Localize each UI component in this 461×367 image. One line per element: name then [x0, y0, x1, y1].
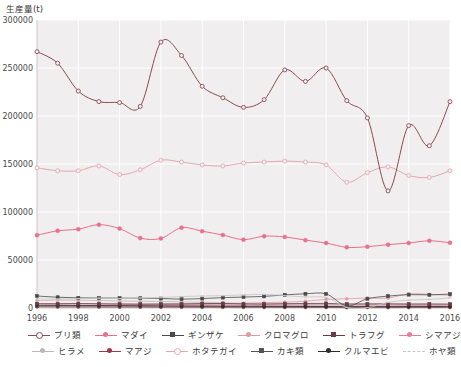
data-point-circle-open: [35, 166, 39, 170]
data-point-circle-open: [303, 160, 307, 164]
legend-label: トラフグ: [349, 330, 385, 340]
data-point-circle-open: [262, 98, 266, 102]
data-point-circle-open: [97, 100, 101, 104]
data-point-circle-open: [324, 66, 328, 70]
data-point-square: [325, 292, 328, 295]
data-point-square: [180, 302, 183, 305]
data-point-circle-open: [407, 174, 411, 178]
data-point-circle: [303, 238, 307, 242]
data-point-circle-open: [448, 169, 452, 173]
data-point-circle: [325, 298, 328, 301]
data-point-circle: [118, 227, 122, 231]
data-point-square: [263, 295, 266, 298]
data-point-circle-open: [407, 124, 411, 128]
y-tick-label: 0: [28, 304, 33, 313]
x-tick-label: 2012: [357, 314, 377, 323]
legend-item[interactable]: マダイ: [95, 330, 148, 340]
data-point-circle-open: [200, 84, 204, 88]
data-point-square: [56, 296, 59, 299]
x-tick-label: 1998: [68, 314, 88, 323]
y-tick-labels: 050000100000150000200000250000300000: [2, 16, 33, 313]
legend-label: カキ類: [277, 346, 304, 356]
legend-item[interactable]: クロマグロ: [238, 330, 309, 340]
data-point-circle: [221, 233, 225, 237]
data-point-circle-open: [345, 180, 349, 184]
y-tick-label: 100000: [2, 208, 33, 217]
x-tick-label: 2000: [109, 314, 129, 323]
data-point-circle-open: [76, 89, 80, 93]
legend-item[interactable]: ブリ類: [28, 330, 81, 340]
data-point-circle-open: [97, 164, 101, 168]
data-point-circle: [180, 226, 184, 230]
legend-swatch-icon: [28, 330, 50, 340]
data-point-circle: [448, 241, 452, 245]
x-tick-label: 1996: [27, 314, 47, 323]
data-point-circle: [304, 305, 307, 308]
data-point-circle-open: [283, 68, 287, 72]
legend-item[interactable]: シマアジ: [399, 330, 461, 340]
legend-label: ギンザケ: [188, 330, 224, 340]
legend-label: クロマグロ: [264, 330, 309, 340]
data-point-circle: [138, 236, 142, 240]
data-point-circle-open: [76, 169, 80, 173]
legend-item[interactable]: ヒラメ: [32, 346, 85, 356]
y-tick-label: 300000: [2, 16, 33, 25]
legend-swatch-icon: [162, 330, 184, 340]
legend-swatch-icon: [95, 330, 117, 340]
data-point-square: [407, 293, 410, 296]
data-point-circle-open: [180, 160, 184, 164]
data-point-circle: [159, 236, 163, 240]
data-point-circle: [35, 233, 39, 237]
data-point-circle-open: [221, 164, 225, 168]
data-point-circle-open: [180, 54, 184, 58]
x-tick-label: 2008: [275, 314, 295, 323]
data-point-square: [242, 302, 245, 305]
legend-item[interactable]: トラフグ: [323, 330, 385, 340]
data-point-circle: [387, 305, 390, 308]
legend-item[interactable]: マアジ: [99, 346, 152, 356]
data-point-square: [283, 302, 286, 305]
legend-item[interactable]: カキ類: [251, 346, 304, 356]
legend-label: ホタテガイ: [192, 346, 237, 356]
data-point-circle: [200, 229, 204, 233]
data-point-circle-open: [242, 105, 246, 109]
data-point-circle-open: [427, 144, 431, 148]
data-point-circle: [345, 297, 348, 300]
data-point-circle-open: [365, 116, 369, 120]
data-point-circle: [386, 243, 390, 247]
x-tick-label: 2002: [151, 314, 171, 323]
legend-label: ブリ類: [54, 330, 81, 340]
data-point-square: [221, 302, 224, 305]
data-point-circle: [36, 299, 39, 302]
legend-swatch-icon: [251, 346, 273, 356]
legend-item[interactable]: クルマエビ: [318, 346, 389, 356]
chart-legend: ブリ類マダイギンザケクロマグロトラフグシマアジ ヒラメマアジホタテガイカキ類クル…: [34, 327, 454, 363]
data-point-circle-open: [56, 169, 60, 173]
data-point-square: [428, 293, 431, 296]
data-point-square: [304, 292, 307, 295]
y-tick-label: 50000: [8, 256, 33, 265]
data-point-circle: [407, 241, 411, 245]
legend-item[interactable]: ホヤ類: [403, 346, 456, 356]
legend-swatch-icon: [318, 346, 340, 356]
data-point-square: [56, 302, 59, 305]
data-point-square: [263, 303, 266, 306]
data-point-circle-open: [345, 99, 349, 103]
data-point-circle-open: [283, 159, 287, 163]
legend-swatch-icon: [399, 330, 421, 340]
data-point-square: [221, 296, 224, 299]
data-point-circle-open: [35, 50, 39, 54]
data-point-square: [366, 297, 369, 300]
data-point-circle-open: [56, 61, 60, 65]
x-tick-label: 2006: [233, 314, 253, 323]
data-point-circle-open: [221, 96, 225, 100]
data-point-circle: [365, 245, 369, 249]
legend-item[interactable]: ホタテガイ: [166, 346, 237, 356]
data-point-circle-open: [448, 100, 452, 104]
legend-swatch-icon: [238, 330, 260, 340]
data-point-square: [407, 302, 410, 305]
y-tick-label: 150000: [2, 160, 33, 169]
data-point-square: [325, 302, 328, 305]
legend-item[interactable]: ギンザケ: [162, 330, 224, 340]
